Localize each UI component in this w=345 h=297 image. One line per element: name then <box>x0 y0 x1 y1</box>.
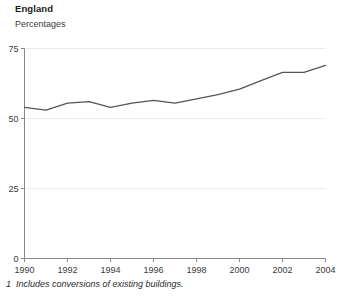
x-tick-labels: 19901992199419961998200020022004 <box>14 265 335 275</box>
series-line <box>25 65 326 110</box>
footnote-text: Includes conversions of existing buildin… <box>16 279 184 289</box>
chart-container: England Percentages 0255075 199019921994… <box>0 0 345 297</box>
x-tick-label: 1992 <box>57 265 77 275</box>
y-tick-label: 50 <box>8 114 18 124</box>
footnote-marker: 1 <box>6 279 11 289</box>
x-tick-label: 2004 <box>315 265 335 275</box>
x-tick-label: 1990 <box>14 265 34 275</box>
x-tick-label: 1996 <box>143 265 163 275</box>
x-tick-label: 1994 <box>100 265 120 275</box>
x-axis <box>25 259 326 263</box>
x-tick-label: 2002 <box>272 265 292 275</box>
gridlines <box>25 49 326 189</box>
y-tick-label: 75 <box>8 44 18 54</box>
y-tick-label: 25 <box>8 184 18 194</box>
x-tick-label: 1998 <box>186 265 206 275</box>
data-series <box>25 65 326 110</box>
x-tick-label: 2000 <box>229 265 249 275</box>
line-chart-plot: 0255075 19901992199419961998200020022004 <box>0 0 345 297</box>
y-tick-labels: 0255075 <box>8 44 18 264</box>
chart-footnote: 1Includes conversions of existing buildi… <box>6 279 184 289</box>
y-axis <box>21 49 25 259</box>
y-tick-label: 0 <box>13 254 18 264</box>
